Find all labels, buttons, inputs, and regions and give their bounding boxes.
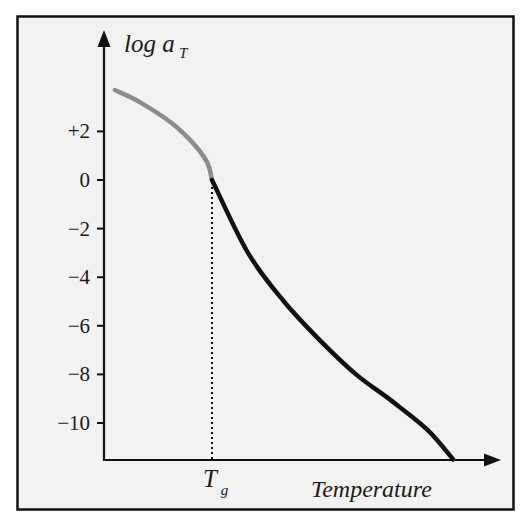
y-tick-label: −6 xyxy=(68,314,90,338)
y-tick-label: −10 xyxy=(57,411,90,435)
tg-label-subscript: g xyxy=(221,482,229,498)
y-axis-title: log a T xyxy=(124,30,189,61)
chart-frame xyxy=(18,17,514,510)
y-tick-label: −2 xyxy=(68,217,90,241)
y-tick-label: +2 xyxy=(68,119,90,143)
x-axis-title: Temperature xyxy=(311,476,432,502)
y-tick-label: 0 xyxy=(80,168,91,192)
y-tick-label: −8 xyxy=(68,362,90,386)
wlf-shift-factor-chart: +20−2−4−6−8−10 log a T T g Temperature xyxy=(0,0,529,525)
y-tick-label: −4 xyxy=(68,265,91,289)
